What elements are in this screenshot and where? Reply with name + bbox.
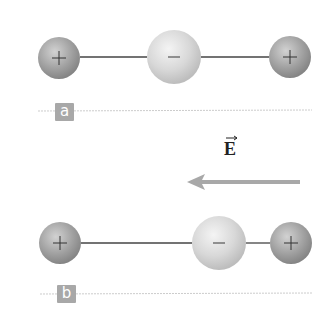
positive-charge-sphere — [38, 37, 80, 79]
panel-a — [38, 30, 312, 111]
positive-charge-sphere — [269, 36, 311, 78]
baseline-divider — [38, 110, 312, 111]
baseline-divider — [40, 293, 313, 294]
negative-charge-sphere — [147, 30, 201, 84]
panel-b — [39, 216, 313, 294]
panel-label-a: a — [55, 103, 74, 121]
electric-field-label: E — [224, 139, 236, 160]
molecule-diagram — [0, 0, 332, 323]
positive-charge-sphere — [39, 222, 81, 264]
positive-charge-sphere — [270, 222, 312, 264]
negative-charge-sphere — [192, 216, 246, 270]
field-arrow-icon — [187, 174, 300, 190]
panel-label-b: b — [57, 285, 76, 303]
